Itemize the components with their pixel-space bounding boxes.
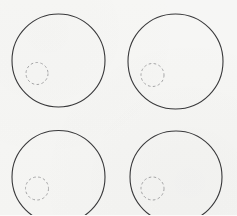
outer-circles-group: [12, 14, 223, 215]
inner-dashed-circle-top-right: [141, 64, 164, 87]
outer-circle-top-left: [12, 14, 105, 107]
inner-dashed-circle-top-left: [26, 63, 48, 85]
circles-figure: [0, 0, 237, 215]
drawing-canvas: [0, 0, 237, 215]
inner-dashed-circle-bottom-left: [26, 177, 49, 200]
inner-dashed-circles-group: [26, 63, 165, 201]
outer-circle-bottom-left: [12, 131, 105, 216]
inner-dashed-circle-bottom-right: [141, 177, 164, 200]
outer-circle-top-right: [128, 14, 223, 109]
outer-circle-bottom-right: [130, 131, 222, 215]
